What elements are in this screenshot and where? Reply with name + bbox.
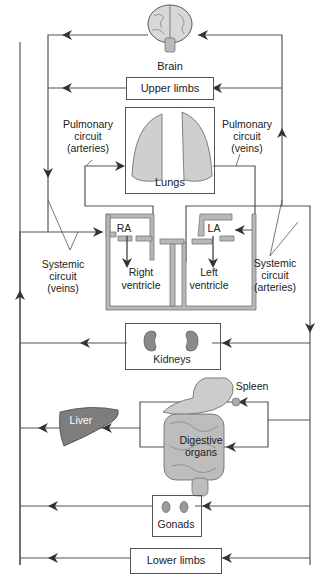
liver-label: Liver [66,414,96,426]
left-ventricle-label-2: ventricle [184,279,234,291]
spleen-label: Spleen [232,380,272,392]
lower-limbs-box: Lower limbs [130,548,222,574]
upper-limbs-label: Upper limbs [127,82,213,94]
brain-label: Brain [150,60,190,72]
lungs-label: Lungs [150,176,190,188]
right-ventricle-label-1: Right [116,266,166,278]
upper-limbs-box: Upper limbs [126,77,214,100]
la-label: LA [204,222,224,234]
left-ventricle-label-1: Left [184,266,234,278]
lower-limbs-label: Lower limbs [131,554,221,566]
digestive-label-1: Digestive [176,434,226,446]
gonads-label: Gonads [152,518,200,530]
ra-label: RA [114,222,134,234]
right-ventricle-label-2: ventricle [116,279,166,291]
gonads-box [152,495,202,537]
digestive-label-2: organs [176,446,226,458]
brain-illustration [148,5,192,52]
kidneys-label: Kidneys [145,353,199,365]
